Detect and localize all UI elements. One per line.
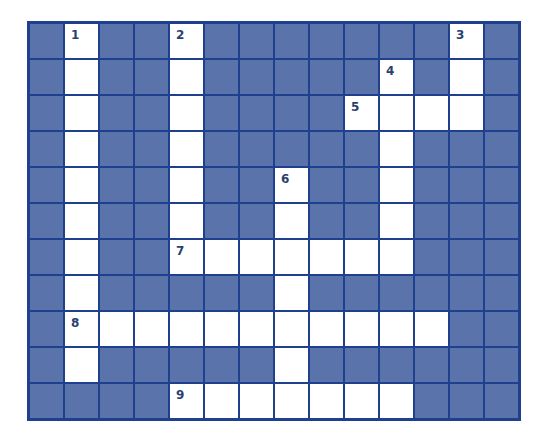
- crossword-block: [29, 59, 64, 95]
- crossword-block: [274, 23, 309, 59]
- crossword-block: [29, 275, 64, 311]
- crossword-block: [204, 275, 239, 311]
- crossword-block: [29, 239, 64, 275]
- crossword-cell[interactable]: 1: [64, 23, 99, 59]
- crossword-cell[interactable]: [64, 275, 99, 311]
- crossword-cell[interactable]: [449, 59, 484, 95]
- crossword-block: [449, 203, 484, 239]
- crossword-block: [99, 59, 134, 95]
- crossword-block: [99, 275, 134, 311]
- crossword-block: [484, 275, 519, 311]
- crossword-cell[interactable]: [274, 275, 309, 311]
- crossword-cell[interactable]: [239, 239, 274, 275]
- crossword-block: [204, 95, 239, 131]
- crossword-cell[interactable]: [169, 59, 204, 95]
- crossword-block: [134, 383, 169, 419]
- crossword-cell[interactable]: [204, 239, 239, 275]
- crossword-cell[interactable]: [344, 311, 379, 347]
- crossword-block: [344, 23, 379, 59]
- crossword-block: [99, 347, 134, 383]
- crossword-cell[interactable]: [274, 239, 309, 275]
- crossword-block: [449, 311, 484, 347]
- crossword-cell[interactable]: [274, 311, 309, 347]
- crossword-block: [29, 383, 64, 419]
- crossword-cell[interactable]: [309, 311, 344, 347]
- crossword-cell[interactable]: [64, 59, 99, 95]
- crossword-cell[interactable]: [344, 383, 379, 419]
- crossword-cell[interactable]: [309, 239, 344, 275]
- crossword-block: [449, 383, 484, 419]
- crossword-block: [414, 347, 449, 383]
- crossword-cell[interactable]: [64, 239, 99, 275]
- crossword-cell[interactable]: [169, 131, 204, 167]
- crossword-cell[interactable]: [379, 311, 414, 347]
- crossword-cell[interactable]: [99, 311, 134, 347]
- clue-number: 7: [176, 244, 184, 258]
- crossword-cell[interactable]: [64, 167, 99, 203]
- crossword-block: [484, 311, 519, 347]
- crossword-cell[interactable]: [379, 239, 414, 275]
- crossword-block: [414, 203, 449, 239]
- crossword-cell[interactable]: 4: [379, 59, 414, 95]
- crossword-block: [99, 23, 134, 59]
- crossword-block: [379, 347, 414, 383]
- crossword-cell[interactable]: 5: [344, 95, 379, 131]
- crossword-block: [204, 59, 239, 95]
- crossword-cell[interactable]: [204, 383, 239, 419]
- crossword-cell[interactable]: [239, 383, 274, 419]
- crossword-cell[interactable]: [414, 95, 449, 131]
- clue-number: 5: [351, 100, 359, 114]
- crossword-cell[interactable]: 3: [449, 23, 484, 59]
- crossword-block: [29, 167, 64, 203]
- crossword-block: [29, 95, 64, 131]
- crossword-block: [204, 131, 239, 167]
- clue-number: 2: [176, 28, 184, 42]
- crossword-cell[interactable]: 7: [169, 239, 204, 275]
- crossword-cell[interactable]: [379, 131, 414, 167]
- crossword-cell[interactable]: [309, 383, 344, 419]
- crossword-grid: 123456789: [27, 21, 521, 421]
- crossword-block: [484, 347, 519, 383]
- crossword-cell[interactable]: [414, 311, 449, 347]
- crossword-block: [134, 347, 169, 383]
- crossword-block: [484, 95, 519, 131]
- crossword-cell[interactable]: [379, 383, 414, 419]
- clue-number: 3: [456, 28, 464, 42]
- crossword-cell[interactable]: [274, 203, 309, 239]
- crossword-block: [204, 347, 239, 383]
- crossword-cell[interactable]: [274, 347, 309, 383]
- crossword-block: [309, 167, 344, 203]
- crossword-cell[interactable]: [344, 239, 379, 275]
- crossword-cell[interactable]: [64, 347, 99, 383]
- crossword-block: [239, 347, 274, 383]
- crossword-block: [484, 203, 519, 239]
- crossword-cell[interactable]: [134, 311, 169, 347]
- crossword-cell[interactable]: [64, 203, 99, 239]
- crossword-cell[interactable]: [274, 383, 309, 419]
- crossword-cell[interactable]: [379, 95, 414, 131]
- crossword-cell[interactable]: [169, 311, 204, 347]
- crossword-cell[interactable]: [169, 203, 204, 239]
- crossword-cell[interactable]: [64, 95, 99, 131]
- crossword-cell[interactable]: [379, 167, 414, 203]
- crossword-block: [309, 95, 344, 131]
- crossword-block: [414, 275, 449, 311]
- crossword-cell[interactable]: [204, 311, 239, 347]
- crossword-cell[interactable]: 2: [169, 23, 204, 59]
- crossword-cell[interactable]: [449, 95, 484, 131]
- crossword-block: [414, 23, 449, 59]
- crossword-cell[interactable]: [169, 95, 204, 131]
- crossword-cell[interactable]: 8: [64, 311, 99, 347]
- crossword-block: [344, 275, 379, 311]
- clue-number: 1: [71, 28, 79, 42]
- crossword-block: [414, 59, 449, 95]
- crossword-cell[interactable]: 6: [274, 167, 309, 203]
- crossword-cell[interactable]: [169, 167, 204, 203]
- crossword-cell[interactable]: [379, 203, 414, 239]
- crossword-block: [169, 275, 204, 311]
- crossword-cell[interactable]: [64, 131, 99, 167]
- crossword-block: [239, 59, 274, 95]
- crossword-cell[interactable]: [239, 311, 274, 347]
- crossword-cell[interactable]: 9: [169, 383, 204, 419]
- crossword-block: [414, 383, 449, 419]
